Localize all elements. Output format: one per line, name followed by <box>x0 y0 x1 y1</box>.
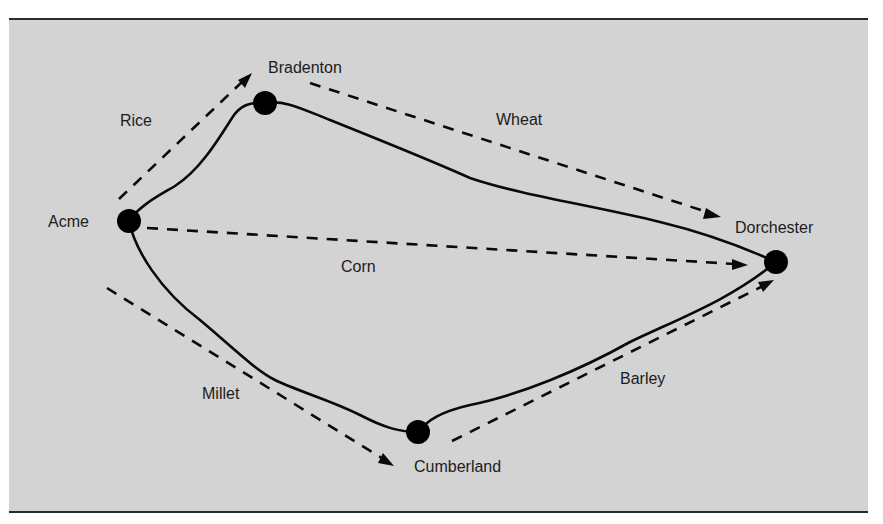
flow-label-millet: Millet <box>202 385 240 402</box>
node-label-acme: Acme <box>48 213 89 230</box>
flow-wheat <box>310 83 721 219</box>
arrowhead-icon <box>758 280 774 292</box>
node-dorchester <box>764 250 788 274</box>
node-cumberland <box>406 420 430 444</box>
arrowhead-icon <box>238 73 252 88</box>
arrowhead-icon <box>378 453 394 466</box>
flow-label-rice: Rice <box>120 112 152 129</box>
flow-barley <box>452 280 774 441</box>
node-label-cumberland: Cumberland <box>414 458 501 475</box>
arrowhead-icon <box>703 208 721 219</box>
flow-rice <box>119 73 252 199</box>
node-acme <box>117 209 141 233</box>
route-cumberland-dorchester <box>418 262 776 432</box>
route-acme-cumberland <box>129 221 418 432</box>
flow-corn <box>147 228 748 270</box>
arrowhead-icon <box>732 259 748 270</box>
flow-millet <box>107 288 394 466</box>
flow-label-barley: Barley <box>620 370 665 387</box>
node-bradenton <box>253 91 277 115</box>
flow-label-corn: Corn <box>341 258 376 275</box>
flow-label-wheat: Wheat <box>496 111 543 128</box>
node-label-dorchester: Dorchester <box>735 219 814 236</box>
network-diagram: Acme Bradenton Dorchester Cumberland Ric… <box>0 0 883 524</box>
node-label-bradenton: Bradenton <box>268 59 342 76</box>
